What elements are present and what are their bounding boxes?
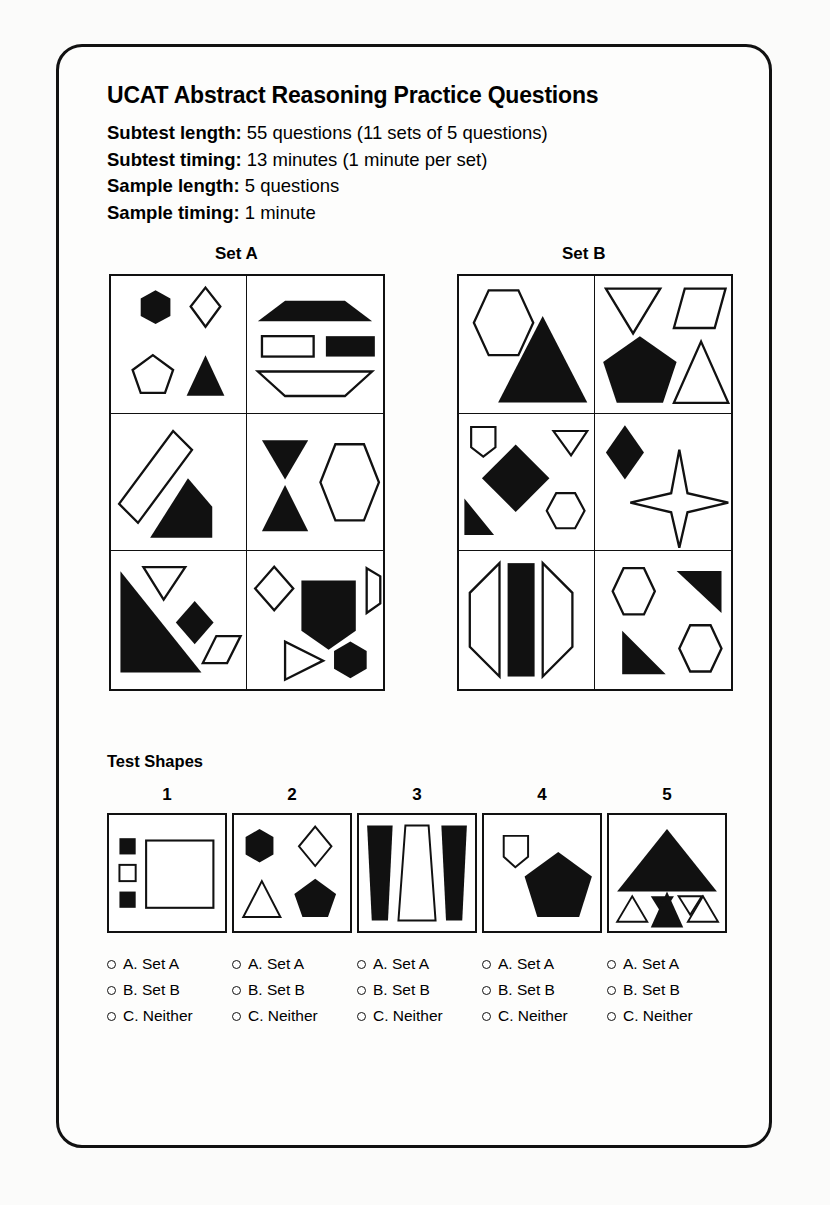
set-b-grid bbox=[457, 274, 733, 691]
answer-label: A. Set A bbox=[248, 956, 304, 972]
set-b-cell-3 bbox=[459, 414, 595, 552]
answer-option-1-c[interactable]: C. Neither bbox=[107, 1003, 227, 1029]
set-b-cell-6 bbox=[595, 551, 731, 689]
radio-icon[interactable] bbox=[357, 986, 366, 995]
meta-subtest-length: Subtest length: 55 questions (11 sets of… bbox=[107, 120, 731, 146]
outlined-small-pentagon-icon bbox=[471, 427, 495, 457]
set-a-cell-1 bbox=[111, 276, 247, 414]
answer-label: A. Set A bbox=[373, 956, 429, 972]
radio-icon[interactable] bbox=[357, 1012, 366, 1021]
test-shape-box-2 bbox=[232, 813, 352, 933]
outlined-small-triangle-icon bbox=[617, 896, 647, 922]
filled-diamond-icon bbox=[176, 601, 214, 644]
test-shape-number-3: 3 bbox=[357, 785, 477, 805]
filled-pentagon-block-icon bbox=[301, 581, 355, 650]
answer-label: B. Set B bbox=[248, 982, 305, 998]
answer-label: B. Set B bbox=[498, 982, 555, 998]
answer-option-3-b[interactable]: B. Set B bbox=[357, 977, 477, 1003]
outlined-small-shield-pentagon-icon bbox=[504, 836, 528, 867]
meta-value-subtest-length: 55 questions (11 sets of 5 questions) bbox=[247, 122, 548, 143]
set-a-cell-4 bbox=[247, 414, 383, 552]
set-a-label: Set A bbox=[215, 244, 258, 264]
answer-option-1-b[interactable]: B. Set B bbox=[107, 977, 227, 1003]
radio-icon[interactable] bbox=[107, 960, 116, 969]
answer-option-4-b[interactable]: B. Set B bbox=[482, 977, 602, 1003]
outlined-rectangle-icon bbox=[262, 336, 314, 356]
radio-icon[interactable] bbox=[482, 986, 491, 995]
outlined-diamond-icon bbox=[299, 827, 331, 866]
sets-row bbox=[107, 274, 731, 694]
answer-option-3-c[interactable]: C. Neither bbox=[357, 1003, 477, 1029]
meta-sample-timing: Sample timing: 1 minute bbox=[107, 200, 731, 226]
set-b-cell-2 bbox=[595, 276, 731, 414]
filled-diamond-icon bbox=[606, 425, 644, 479]
test-shape-numbers: 1 2 3 4 5 bbox=[107, 785, 731, 811]
answer-column-1: A. Set A B. Set B C. Neither bbox=[107, 951, 227, 1029]
outlined-left-trapezoid-icon bbox=[470, 564, 500, 677]
outlined-hexagon-icon bbox=[474, 290, 533, 355]
filled-small-square-icon bbox=[119, 892, 135, 908]
meta-value-sample-length: 5 questions bbox=[245, 175, 340, 196]
outlined-triangle-icon bbox=[674, 342, 728, 403]
radio-icon[interactable] bbox=[357, 960, 366, 969]
answer-label: C. Neither bbox=[373, 1008, 443, 1024]
set-a-grid bbox=[109, 274, 385, 691]
filled-right-triangle-icon bbox=[677, 571, 722, 613]
answer-option-3-a[interactable]: A. Set A bbox=[357, 951, 477, 977]
answer-option-5-a[interactable]: A. Set A bbox=[607, 951, 727, 977]
radio-icon[interactable] bbox=[482, 960, 491, 969]
outlined-large-square-icon bbox=[146, 841, 213, 908]
radio-icon[interactable] bbox=[107, 986, 116, 995]
radio-icon[interactable] bbox=[232, 1012, 241, 1021]
test-shapes-row bbox=[107, 813, 731, 937]
answer-option-1-a[interactable]: A. Set A bbox=[107, 951, 227, 977]
answer-option-2-a[interactable]: A. Set A bbox=[232, 951, 352, 977]
answer-column-3: A. Set A B. Set B C. Neither bbox=[357, 951, 477, 1029]
radio-icon[interactable] bbox=[107, 1012, 116, 1021]
outlined-hexagon-icon bbox=[613, 569, 655, 615]
meta-label-sample-timing: Sample timing: bbox=[107, 202, 240, 223]
answer-label: C. Neither bbox=[623, 1008, 693, 1024]
filled-rectangle-icon bbox=[326, 336, 375, 356]
meta-label-subtest-timing: Subtest timing: bbox=[107, 149, 242, 170]
answer-option-4-c[interactable]: C. Neither bbox=[482, 1003, 602, 1029]
radio-icon[interactable] bbox=[607, 960, 616, 969]
filled-right-triangle-icon bbox=[464, 498, 494, 534]
radio-icon[interactable] bbox=[607, 1012, 616, 1021]
answer-option-2-b[interactable]: B. Set B bbox=[232, 977, 352, 1003]
meta-sample-length: Sample length: 5 questions bbox=[107, 173, 731, 199]
outlined-small-square-icon bbox=[119, 865, 135, 881]
filled-right-triangle-icon bbox=[622, 631, 666, 675]
radio-icon[interactable] bbox=[482, 1012, 491, 1021]
answer-option-5-b[interactable]: B. Set B bbox=[607, 977, 727, 1003]
test-shape-number-5: 5 bbox=[607, 785, 727, 805]
answer-column-2: A. Set A B. Set B C. Neither bbox=[232, 951, 352, 1029]
answer-label: C. Neither bbox=[123, 1008, 193, 1024]
outlined-parallelogram-icon bbox=[674, 289, 726, 328]
answer-option-2-c[interactable]: C. Neither bbox=[232, 1003, 352, 1029]
test-shape-box-1 bbox=[107, 813, 227, 933]
filled-hexagon-icon bbox=[334, 642, 367, 679]
outlined-parallelogram-icon bbox=[203, 636, 241, 663]
set-labels: Set A Set B bbox=[107, 244, 731, 270]
meta-value-sample-timing: 1 minute bbox=[245, 202, 316, 223]
radio-icon[interactable] bbox=[607, 986, 616, 995]
radio-icon[interactable] bbox=[232, 986, 241, 995]
filled-large-triangle-icon bbox=[617, 829, 717, 892]
test-shape-number-4: 4 bbox=[482, 785, 602, 805]
test-shape-box-5 bbox=[607, 813, 727, 933]
outlined-hexagon-icon bbox=[679, 626, 721, 672]
filled-tapered-bar-icon bbox=[367, 826, 393, 921]
answer-option-4-a[interactable]: A. Set A bbox=[482, 951, 602, 977]
outlined-right-triangle-icon bbox=[285, 642, 323, 680]
test-shape-number-1: 1 bbox=[107, 785, 227, 805]
answer-option-5-c[interactable]: C. Neither bbox=[607, 1003, 727, 1029]
question-card: UCAT Abstract Reasoning Practice Questio… bbox=[56, 44, 772, 1148]
radio-icon[interactable] bbox=[232, 960, 241, 969]
set-b-cell-4 bbox=[595, 414, 731, 552]
outlined-trapezoid-icon bbox=[367, 569, 381, 614]
test-shape-box-4 bbox=[482, 813, 602, 933]
answer-label: B. Set B bbox=[123, 982, 180, 998]
set-b-label: Set B bbox=[562, 244, 605, 264]
filled-hexagon-icon bbox=[246, 829, 274, 863]
